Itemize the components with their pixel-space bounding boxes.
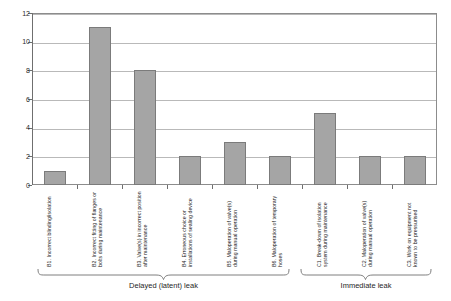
group-label-immediate-text: Immediate leak bbox=[341, 281, 392, 290]
x-tick-label-text: B1. Incorrect blinding/isolation bbox=[46, 189, 52, 267]
x-tick-label-text: C1. Break-down of isolation system durin… bbox=[316, 189, 328, 267]
bar bbox=[224, 142, 246, 185]
y-tick-label: 12 bbox=[0, 10, 30, 17]
y-tick-text: 2 bbox=[26, 153, 30, 160]
y-tick-text: 10 bbox=[22, 38, 30, 45]
x-axis-labels: B1. Incorrect blinding/isolation B2. Inc… bbox=[32, 189, 437, 269]
x-tick-label: C1. Break-down of isolation system durin… bbox=[316, 189, 328, 267]
bar bbox=[179, 156, 201, 185]
group-label-delayed-text: Delayed (latent) leak bbox=[129, 281, 198, 290]
bar bbox=[269, 156, 291, 185]
x-tick-label: B6. Maloperation of temporary hoses bbox=[271, 189, 283, 267]
x-tick-label-text: B4. Erroneous choice or installations of… bbox=[181, 189, 193, 267]
bars-layer bbox=[32, 13, 437, 185]
bar bbox=[359, 156, 381, 185]
x-tick-label-text: B5. Maloperation of valve(s) during manu… bbox=[226, 189, 238, 267]
x-tick-label: B2. Incorrect fitting of flanges or bolt… bbox=[91, 189, 103, 267]
y-tick-text: 8 bbox=[26, 67, 30, 74]
y-tick-label: 0 bbox=[0, 182, 30, 189]
y-tick-label: 4 bbox=[0, 124, 30, 131]
group-brace-immediate bbox=[300, 269, 432, 280]
y-tick-label: 10 bbox=[0, 38, 30, 45]
bar bbox=[89, 27, 111, 185]
x-tick-label: B3. Valve(s) in incorrect position after… bbox=[136, 189, 148, 267]
x-tick-label-text: C3. Work on equipment not known to be pr… bbox=[406, 189, 418, 267]
y-tick-text: 4 bbox=[26, 124, 30, 131]
group-label-immediate: Immediate leak bbox=[300, 281, 432, 290]
y-tick-text: 0 bbox=[26, 182, 30, 189]
x-tick-label-text: B2. Incorrect fitting of flanges or bolt… bbox=[91, 189, 103, 267]
bar-chart: 12 10 8 6 4 2 0 B1. Incorrect blinding/i… bbox=[0, 0, 451, 301]
x-tick-label: C3. Work on equipment not known to be pr… bbox=[406, 189, 418, 267]
y-tick-label: 2 bbox=[0, 153, 30, 160]
x-tick-label-text: B6. Maloperation of temporary hoses bbox=[271, 189, 283, 267]
bar bbox=[404, 156, 426, 185]
group-brace-delayed bbox=[37, 269, 290, 280]
y-tick-text: 12 bbox=[22, 10, 30, 17]
bar bbox=[314, 113, 336, 185]
x-tick-label: C2. Maloperation of valve(s) during manu… bbox=[361, 189, 373, 267]
x-tick-label: B1. Incorrect blinding/isolation bbox=[46, 189, 52, 267]
x-tick-label: B4. Erroneous choice or installations of… bbox=[181, 189, 193, 267]
group-label-delayed: Delayed (latent) leak bbox=[37, 281, 290, 290]
bar bbox=[44, 171, 66, 185]
x-tick-label-text: C2. Maloperation of valve(s) during manu… bbox=[361, 189, 373, 267]
y-tick-label: 6 bbox=[0, 96, 30, 103]
x-tick-label-text: B3. Valve(s) in incorrect position after… bbox=[136, 189, 148, 267]
y-tick-text: 6 bbox=[26, 96, 30, 103]
x-tick-label: B5. Maloperation of valve(s) during manu… bbox=[226, 189, 238, 267]
y-tick-label: 8 bbox=[0, 67, 30, 74]
bar bbox=[134, 70, 156, 185]
